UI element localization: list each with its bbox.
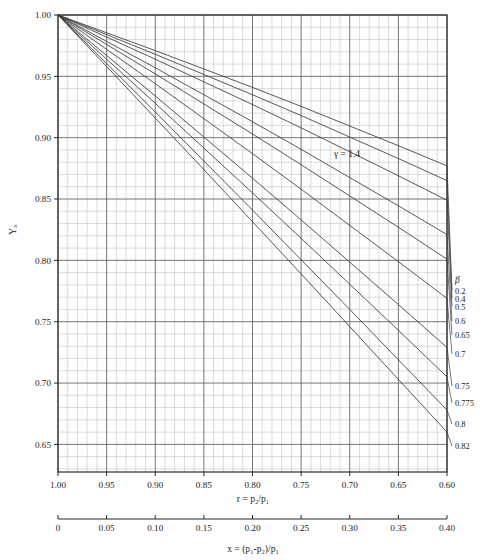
beta-label-0.7: 0.7 <box>455 350 465 359</box>
beta-label-0.8: 0.8 <box>455 420 465 429</box>
x-secondary-tick-label: 0 <box>56 523 61 533</box>
x-primary-tick-label: 0.95 <box>99 480 115 490</box>
gamma-annotation: γ = 1.4 <box>333 149 360 159</box>
beta-legend-title: β <box>454 275 460 285</box>
x-secondary-tick-label: 0.40 <box>439 523 455 533</box>
beta-label-0.65: 0.65 <box>455 331 470 340</box>
x-secondary-tick-label: 0.15 <box>196 523 212 533</box>
beta-label-0.775: 0.775 <box>455 399 474 408</box>
y-tick-label: 0.75 <box>35 317 51 327</box>
beta-label-0.82: 0.82 <box>455 442 470 451</box>
y-tick-label: 0.90 <box>35 133 51 143</box>
beta-label-0.5: 0.5 <box>455 303 465 312</box>
chart-canvas: 1.000.950.900.850.800.750.700.65 1.000.9… <box>0 0 489 560</box>
beta-label-0.6: 0.6 <box>455 317 465 326</box>
x-primary-tick-label: 0.75 <box>293 480 309 490</box>
x-primary-tick-label: 0.85 <box>196 480 212 490</box>
x-axis-secondary-label: x = (p₁-p₂)/p₁ <box>227 543 279 555</box>
x-secondary-tick-label: 0.20 <box>244 523 260 533</box>
y-tick-label: 0.85 <box>35 194 51 204</box>
x-secondary-tick-label: 0.30 <box>342 523 358 533</box>
x-axis-primary-label: r = p₂/p₁ <box>237 493 269 504</box>
x-secondary-tick-label: 0.05 <box>99 523 115 533</box>
y-tick-label: 0.80 <box>35 256 51 266</box>
x-primary-tick-label: 0.60 <box>439 480 455 490</box>
beta-label-0.75: 0.75 <box>455 382 470 391</box>
expansion-factor-chart: 1.000.950.900.850.800.750.700.65 1.000.9… <box>0 0 489 560</box>
x-secondary-tick-label: 0.35 <box>390 523 406 533</box>
y-tick-label: 0.95 <box>35 72 51 82</box>
x-primary-tick-label: 0.80 <box>244 480 260 490</box>
y-tick-label: 0.70 <box>35 378 51 388</box>
x-primary-tick-label: 0.70 <box>342 480 358 490</box>
y-tick-label: 0.65 <box>35 440 51 450</box>
x-primary-tick-label: 1.00 <box>50 480 66 490</box>
x-primary-tick-label: 0.65 <box>390 480 406 490</box>
y-tick-label: 1.00 <box>35 10 51 20</box>
x-primary-tick-label: 0.90 <box>147 480 163 490</box>
x-secondary-tick-label: 0.25 <box>293 523 309 533</box>
y-axis-label: Yₐ <box>7 225 18 235</box>
x-secondary-tick-label: 0.10 <box>147 523 163 533</box>
x-axis-primary-tick-labels: 1.000.950.900.850.800.750.700.650.60 <box>50 480 455 490</box>
